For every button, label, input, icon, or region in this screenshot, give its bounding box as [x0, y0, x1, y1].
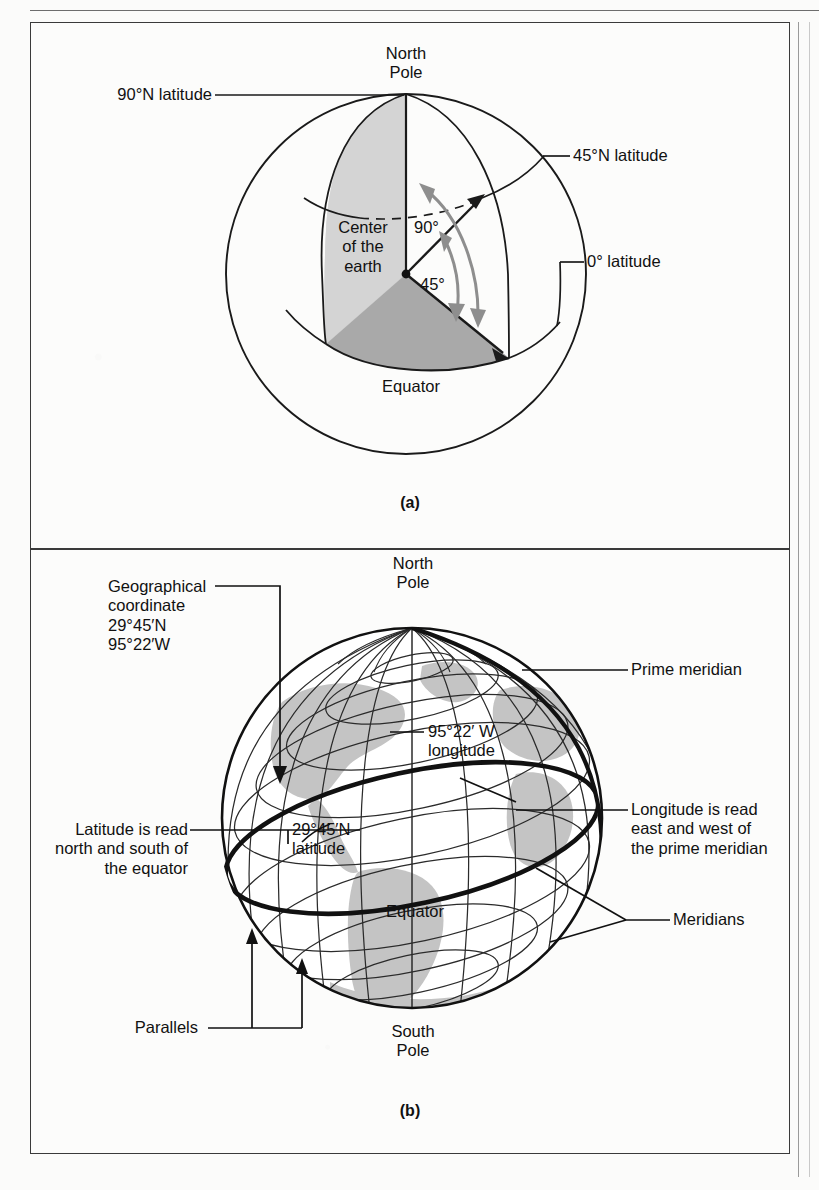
label-north-pole-a: North Pole [346, 44, 466, 83]
label-prime-meridian: Prime meridian [631, 660, 791, 679]
label-geographical-coordinate: Geographical coordinate 29°45′N 95°22′W [108, 577, 258, 654]
page-right-rule-secondary [809, 22, 810, 1177]
label-latitude-point: 29°45′N latitude [292, 820, 392, 859]
label-latitude-note: Latitude is read north and south of the … [38, 820, 188, 878]
label-longitude-note: Longitude is read east and west of the p… [631, 800, 801, 858]
label-center-of-earth: Center of the earth [321, 218, 405, 276]
panel-a: North Pole 90°N latitude 45°N latitude 0… [30, 22, 790, 549]
page-right-rule [798, 22, 799, 1177]
label-equator-b: Equator [360, 902, 470, 921]
leader-parallels-arrow-1 [246, 928, 258, 944]
book-page: North Pole 90°N latitude 45°N latitude 0… [0, 0, 819, 1190]
parallel-45-right-solid [482, 156, 544, 198]
radius-45-arrowhead [467, 194, 485, 209]
label-longitude-point: 95°22′ W longitude [428, 722, 548, 761]
label-south-pole: South Pole [355, 1022, 471, 1061]
label-0-latitude: 0° latitude [587, 252, 737, 271]
label-angle-45: 45° [420, 275, 472, 294]
label-90n-latitude: 90°N latitude [60, 85, 212, 104]
label-parallels: Parallels [72, 1018, 198, 1037]
caption-panel-a: (a) [370, 494, 450, 512]
angle-arc-90-arrowhead-top [419, 183, 435, 204]
panel-b: North Pole Geographical coordinate 29°45… [30, 550, 790, 1154]
page-top-rule [30, 10, 819, 11]
label-north-pole-b: North Pole [355, 554, 471, 593]
angle-arc-90-arrowhead-bottom [470, 308, 486, 328]
caption-panel-b: (b) [370, 1102, 450, 1120]
label-equator-a: Equator [356, 377, 466, 396]
leader-0deg-curve [557, 262, 560, 326]
equator-left-extension [286, 310, 326, 344]
label-angle-90: 90° [414, 218, 466, 237]
label-45n-latitude: 45°N latitude [573, 146, 753, 165]
label-meridians: Meridians [673, 910, 793, 929]
equator-right-extension [509, 322, 560, 358]
